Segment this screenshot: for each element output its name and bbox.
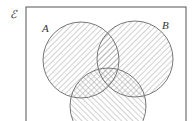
set-a-label: A <box>41 22 49 34</box>
universal-set-label: ℰ <box>10 8 18 20</box>
set-b-label: B <box>162 19 169 31</box>
venn-diagram: ℰ A B <box>0 0 193 121</box>
